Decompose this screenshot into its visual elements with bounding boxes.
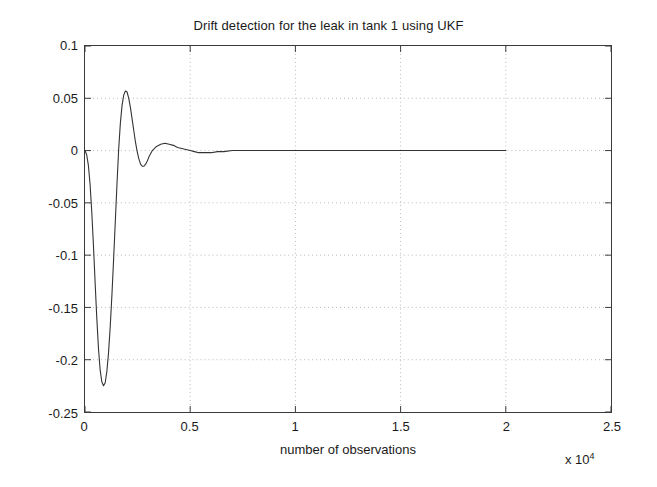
y-tick-label: -0.1 (2, 248, 78, 263)
plot-area (84, 45, 612, 413)
vertical-gridlines (190, 46, 506, 412)
x-exponent-prefix: x 10 (565, 452, 590, 467)
y-tick-label: -0.15 (2, 300, 78, 315)
x-exponent-power: 4 (590, 451, 595, 461)
x-tick-label: 1 (265, 419, 325, 434)
y-axis-tick-labels: 0.10.050-0.05-0.1-0.15-0.2-0.25 (0, 45, 78, 413)
y-tick-label: -0.2 (2, 353, 78, 368)
x-axis-label: number of observations (84, 442, 612, 457)
figure-canvas: Drift detection for the leak in tank 1 u… (0, 0, 657, 487)
x-tick-label: 2 (476, 419, 536, 434)
x-tick-label: 0 (54, 419, 114, 434)
x-axis-tick-labels: 00.511.522.5 (84, 419, 612, 439)
plot-svg (85, 46, 611, 412)
y-tick-label: 0 (2, 143, 78, 158)
y-tick-label: -0.05 (2, 195, 78, 210)
axis-tick-marks (85, 46, 611, 412)
x-tick-label: 2.5 (582, 419, 642, 434)
drift-series-line (85, 91, 506, 386)
chart-title: Drift detection for the leak in tank 1 u… (0, 18, 657, 33)
y-tick-label: 0.05 (2, 90, 78, 105)
x-axis-exponent-annotation: x 104 (565, 451, 595, 467)
x-tick-label: 1.5 (371, 419, 431, 434)
x-tick-label: 0.5 (160, 419, 220, 434)
horizontal-gridlines (85, 98, 611, 359)
y-tick-label: 0.1 (2, 38, 78, 53)
